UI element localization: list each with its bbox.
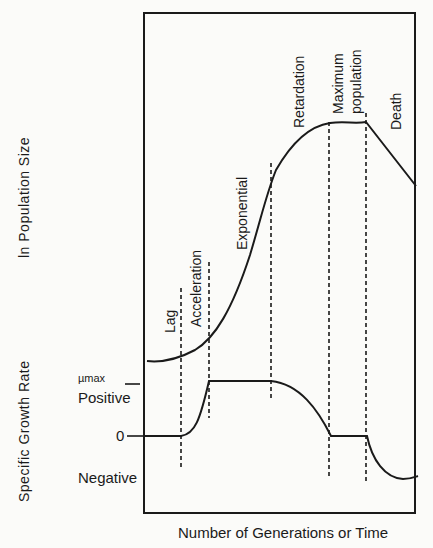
phase-label-acceleration: Acceleration [188,250,204,327]
chart-canvas [0,0,433,548]
growth-curve-figure: ln Population Size Specific Growth Rate … [0,0,433,548]
positive-label: Positive [78,389,131,406]
phase-label-death: Death [388,93,404,130]
phase-label-population: population [348,49,364,114]
negative-label: Negative [78,469,137,486]
growth-rate-curve [145,381,418,479]
x-axis-label: Number of Generations or Time [178,524,388,541]
phase-label-maximum: Maximum [330,53,346,114]
phase-boundaries [181,113,366,482]
upper-y-axis-label: ln Population Size [16,137,32,258]
mu-max-label: µmax [78,372,105,384]
phase-label-retardation: Retardation [291,56,307,128]
zero-label: 0 [116,427,124,444]
phase-label-lag: Lag [162,310,178,333]
plot-frame [144,13,415,513]
lower-y-axis-label: Specific Growth Rate [16,361,32,503]
phase-label-exponential: Exponential [234,177,250,250]
